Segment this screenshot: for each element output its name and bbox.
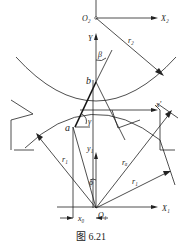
- label-x0: x₀: [77, 214, 85, 223]
- x1-arrow-icon: [151, 205, 158, 209]
- figure-caption: 图 6.21: [76, 231, 106, 242]
- right-arc: [160, 140, 175, 185]
- label-y: Y: [88, 34, 94, 43]
- label-x2: X₂: [160, 14, 169, 23]
- right-tooth-profile: [155, 105, 175, 150]
- label-r2: r₂: [128, 36, 134, 45]
- x0-arrow-left-icon: [67, 216, 73, 220]
- b-right-line: [96, 82, 125, 140]
- middle-tooth: [112, 110, 140, 128]
- r2-radius-line: [96, 18, 162, 74]
- y1-arrow-icon: [94, 152, 98, 159]
- label-y1: y₁: [86, 144, 94, 153]
- label-beta: β: [97, 50, 102, 59]
- lower-circle-arc: [25, 114, 160, 148]
- label-x1: X₁: [161, 204, 170, 213]
- label-ra: rₐ: [122, 158, 128, 167]
- figure-6-21: O₂ X₂ r₂ Y β b a γ x' y₁ r₁ rₐ ϕ r₁ O₁ X…: [0, 0, 187, 243]
- label-phi: ϕ: [89, 178, 93, 187]
- gear-geometry-diagram: O₂ X₂ r₂ Y β b a γ x' y₁ r₁ rₐ ϕ r₁ O₁ X…: [0, 0, 187, 243]
- r1-right-arrow-icon: [163, 171, 171, 176]
- label-a: a: [65, 122, 70, 133]
- o1-to-a-line: [73, 127, 96, 208]
- left-tooth-profile: [11, 100, 33, 150]
- label-gamma: γ: [88, 117, 92, 126]
- x2-arrow-icon: [151, 16, 158, 20]
- label-x-prime: x': [155, 100, 162, 109]
- label-o1: O₁: [98, 211, 107, 220]
- label-r1-left: r₁: [62, 155, 68, 164]
- label-o2: O₂: [82, 14, 91, 23]
- label-r1-right: r₁: [132, 177, 138, 186]
- y-arrow-icon: [94, 33, 98, 40]
- label-b: b: [86, 75, 91, 86]
- ra-line: [96, 113, 170, 208]
